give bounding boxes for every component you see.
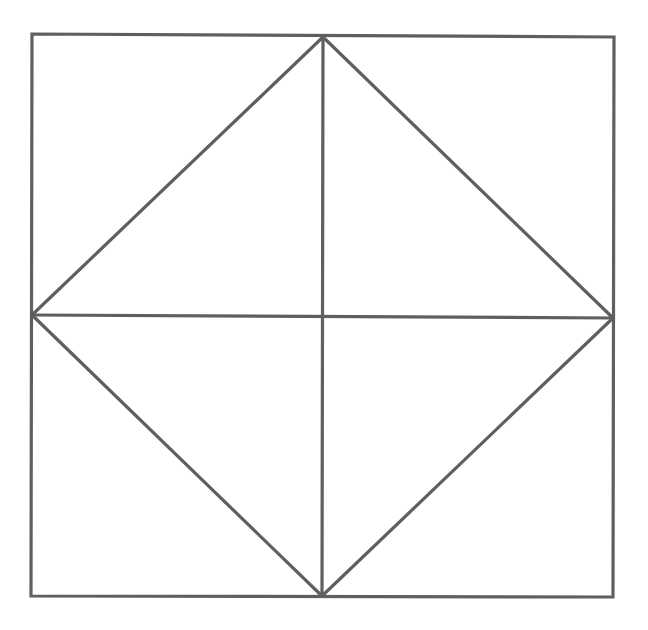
square-diamond-diagram [0, 0, 648, 630]
